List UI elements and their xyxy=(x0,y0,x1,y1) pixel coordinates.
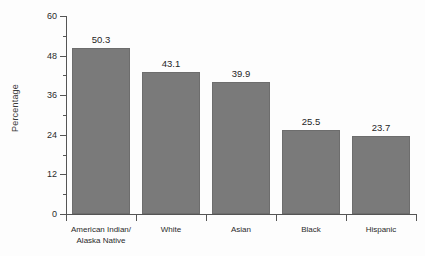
x-axis-category-label-line: Black xyxy=(276,224,346,235)
x-axis-category-label: American Indian/Alaska Native xyxy=(66,224,136,246)
bar[interactable] xyxy=(72,48,130,214)
bar[interactable] xyxy=(212,82,270,214)
bar-slot: 43.1 xyxy=(136,16,206,214)
x-axis-tick xyxy=(416,215,417,221)
x-axis-tick xyxy=(206,215,207,221)
y-axis-tick-label: 48 xyxy=(47,51,57,61)
y-axis-tick-label: 36 xyxy=(47,90,57,100)
x-axis-category-label: Black xyxy=(276,224,346,235)
bar[interactable] xyxy=(282,130,340,214)
x-axis-category-label-line: Asian xyxy=(206,224,276,235)
x-axis-tick xyxy=(276,215,277,221)
y-axis-tick-label: 0 xyxy=(52,209,57,219)
y-axis-tick-label: 60 xyxy=(47,11,57,21)
x-axis-tick xyxy=(346,215,347,221)
bar-slot: 25.5 xyxy=(276,16,346,214)
bar-slot: 39.9 xyxy=(206,16,276,214)
bar-slot: 50.3 xyxy=(66,16,136,214)
y-axis-tick-label: 24 xyxy=(47,130,57,140)
bar-value-label: 25.5 xyxy=(276,116,346,127)
x-axis-category-label: Hispanic xyxy=(346,224,416,235)
x-axis-category-label-line: American Indian/ xyxy=(66,224,136,235)
x-axis-category-labels: American Indian/Alaska NativeWhiteAsianB… xyxy=(66,224,416,254)
x-axis-tick xyxy=(66,215,67,221)
bar[interactable] xyxy=(352,136,410,214)
x-axis-tick xyxy=(136,215,137,221)
y-axis-tick-label: 12 xyxy=(47,169,57,179)
bar-chart: Percentage 01224364860 50.343.139.925.52… xyxy=(0,0,425,256)
bar[interactable] xyxy=(142,72,200,214)
bar-value-label: 23.7 xyxy=(346,122,416,133)
x-axis-category-label: Asian xyxy=(206,224,276,235)
bar-value-label: 43.1 xyxy=(136,58,206,69)
bar-value-label: 50.3 xyxy=(66,34,136,45)
bars-layer: 50.343.139.925.523.7 xyxy=(66,16,416,214)
x-axis-category-label-line: Hispanic xyxy=(346,224,416,235)
x-axis-category-label-line: Alaska Native xyxy=(66,235,136,246)
bar-slot: 23.7 xyxy=(346,16,416,214)
y-axis: 01224364860 xyxy=(0,16,67,214)
x-axis-category-label: White xyxy=(136,224,206,235)
x-axis xyxy=(66,215,417,223)
x-axis-category-label-line: White xyxy=(136,224,206,235)
bar-value-label: 39.9 xyxy=(206,68,276,79)
